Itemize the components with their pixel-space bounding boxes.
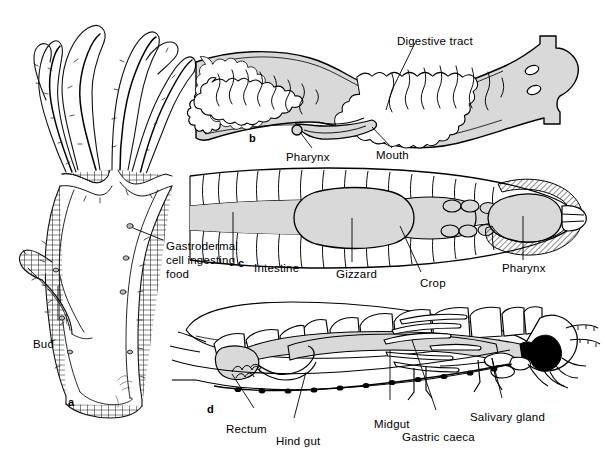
- label-gastrodermal-line3: food: [166, 268, 189, 281]
- figure-artwork: [0, 0, 605, 469]
- panel-label-c: c: [238, 257, 244, 269]
- label-bud: Bud: [33, 338, 54, 351]
- label-intestine: Intestine: [254, 262, 299, 275]
- label-rectum: Rectum: [226, 423, 267, 436]
- figure-canvas: Bud Gastrodermal cell ingesting food a D…: [0, 0, 605, 469]
- label-gastrodermal-line2: cell ingesting: [166, 254, 235, 267]
- panel-label-b: b: [249, 132, 256, 144]
- label-gastric-caeca: Gastric caeca: [402, 431, 475, 444]
- label-pharynx-c: Pharynx: [502, 262, 546, 275]
- label-mouth: Mouth: [376, 149, 409, 162]
- panel-label-a: a: [68, 396, 74, 408]
- label-pharynx-b: Pharynx: [286, 151, 330, 164]
- label-hind-gut: Hind gut: [276, 435, 320, 448]
- label-gizzard: Gizzard: [336, 268, 377, 281]
- panel-label-d: d: [207, 403, 214, 415]
- label-digestive-tract: Digestive tract: [397, 35, 473, 48]
- label-midgut: Midgut: [374, 418, 410, 431]
- label-salivary-gland: Salivary gland: [470, 411, 545, 424]
- label-crop: Crop: [420, 277, 446, 290]
- label-gastrodermal-line1: Gastrodermal: [166, 240, 238, 253]
- gizzard: [294, 188, 414, 249]
